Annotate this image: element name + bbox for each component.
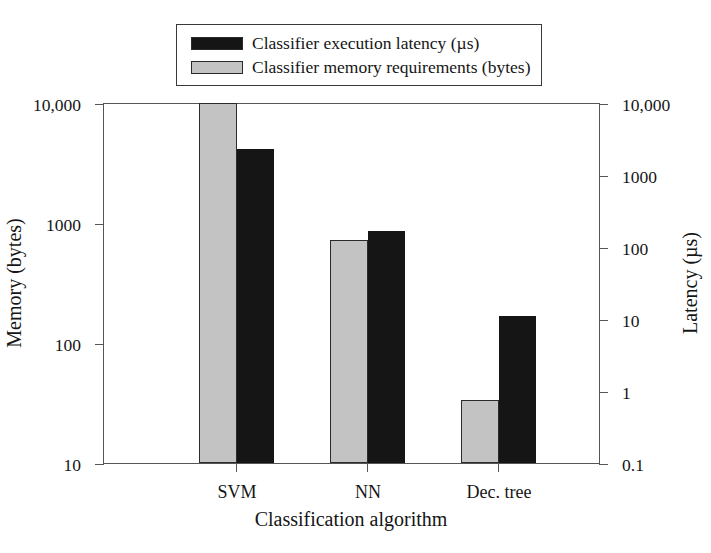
bar-latency-dec-tree	[499, 316, 536, 463]
y-right-tick-10000: 10,000	[599, 104, 608, 105]
x-axis-title: Classification algorithm	[255, 508, 448, 531]
y-right-ticklabel-100: 100	[622, 239, 648, 260]
y-right-ticklabel-1000: 1000	[622, 167, 657, 188]
legend-swatch-icon-latency	[191, 37, 243, 50]
y-left-tick-100: 100	[95, 344, 104, 345]
plot-area: 10,000 1000 100 10 10,000 1000 100 10 1 …	[103, 103, 600, 464]
x-ticklabel-svm: SVM	[217, 482, 256, 503]
y-right-ticklabel-0point1: 0.1	[622, 455, 644, 476]
x-ticklabel-dec-tree: Dec. tree	[467, 482, 532, 503]
y-right-tick-100: 100	[599, 248, 608, 249]
legend-swatch-icon-memory	[191, 61, 243, 74]
legend-entry-list: Classifier execution latency (µs) Classi…	[191, 31, 530, 79]
x-tick-nn: NN	[367, 463, 368, 472]
bar-memory-nn	[330, 240, 368, 463]
chart-figure: Classifier execution latency (µs) Classi…	[0, 0, 711, 553]
x-ticklabel-nn: NN	[355, 482, 381, 503]
y-left-ticklabel-100: 100	[55, 335, 81, 356]
y-right-ticklabel-10000: 10,000	[622, 95, 670, 116]
y-right-tick-1: 1	[599, 392, 608, 393]
y-axis-left-title: Memory (bytes)	[3, 218, 26, 347]
y-right-ticklabel-10: 10	[622, 311, 640, 332]
legend-entry-latency: Classifier execution latency (µs)	[191, 31, 530, 55]
y-left-tick-10: 10	[95, 464, 104, 465]
bar-latency-nn	[368, 231, 405, 463]
y-left-ticklabel-10000: 10,000	[33, 95, 81, 116]
bars-layer	[104, 104, 599, 463]
bar-latency-svm	[237, 149, 274, 463]
chart-legend: Classifier execution latency (µs) Classi…	[176, 24, 542, 86]
y-left-tick-10000: 10,000	[95, 104, 104, 105]
y-axis-right-title: Latency (µs)	[679, 232, 702, 334]
y-right-tick-1000: 1000	[599, 176, 608, 177]
x-tick-dec-tree: Dec. tree	[498, 463, 499, 472]
bar-memory-svm	[199, 103, 237, 463]
y-right-ticklabel-1: 1	[622, 383, 631, 404]
legend-label-memory: Classifier memory requirements (bytes)	[252, 58, 530, 77]
x-tick-svm: SVM	[236, 463, 237, 472]
y-left-tick-1000: 1000	[95, 224, 104, 225]
y-right-tick-0.1: 0.1	[599, 464, 608, 465]
legend-entry-memory: Classifier memory requirements (bytes)	[191, 55, 530, 79]
y-right-tick-10: 10	[599, 320, 608, 321]
legend-label-latency: Classifier execution latency (µs)	[252, 34, 479, 53]
bar-memory-dec-tree	[461, 400, 499, 463]
y-left-ticklabel-10: 10	[64, 455, 82, 476]
y-left-ticklabel-1000: 1000	[46, 215, 81, 236]
